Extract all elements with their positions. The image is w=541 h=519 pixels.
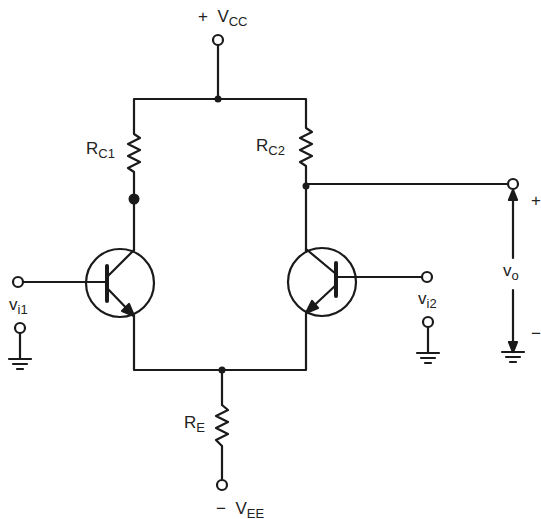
re-label: RE — [184, 414, 205, 434]
vi1-label: vi1 — [9, 296, 28, 316]
vo-minus-sign: − — [531, 325, 541, 342]
q1-transistor — [23, 249, 154, 317]
vo-plus-sign: + — [531, 192, 541, 209]
vcc-label: + VCC — [198, 8, 248, 28]
vee-label: − VEE — [216, 500, 264, 519]
vo-plus-terminal — [508, 179, 518, 189]
q1-collector-junction-dot — [129, 194, 140, 205]
re-resistor — [216, 405, 228, 480]
output-junction-dot — [303, 183, 310, 190]
vo-label: vo — [503, 262, 519, 282]
vcc-terminal — [213, 35, 223, 45]
vi1-ground-terminal — [15, 323, 25, 333]
vi2-label: vi2 — [418, 290, 437, 310]
vi1-terminal — [13, 277, 23, 287]
emitter-rail — [134, 314, 306, 370]
rc2-resistor — [300, 124, 312, 187]
rc1-resistor — [128, 130, 140, 200]
rc2-label: RC2 — [256, 137, 285, 157]
top-rail — [134, 99, 306, 130]
vi2-terminal — [422, 272, 432, 282]
vcc-junction-dot — [215, 96, 222, 103]
q2-transistor — [288, 248, 422, 316]
vi2-ground-terminal — [423, 317, 433, 327]
emitter-junction-dot — [219, 367, 226, 374]
rc1-label: RC1 — [86, 140, 115, 160]
vee-terminal — [217, 480, 227, 490]
circuit-diagram — [0, 0, 541, 519]
